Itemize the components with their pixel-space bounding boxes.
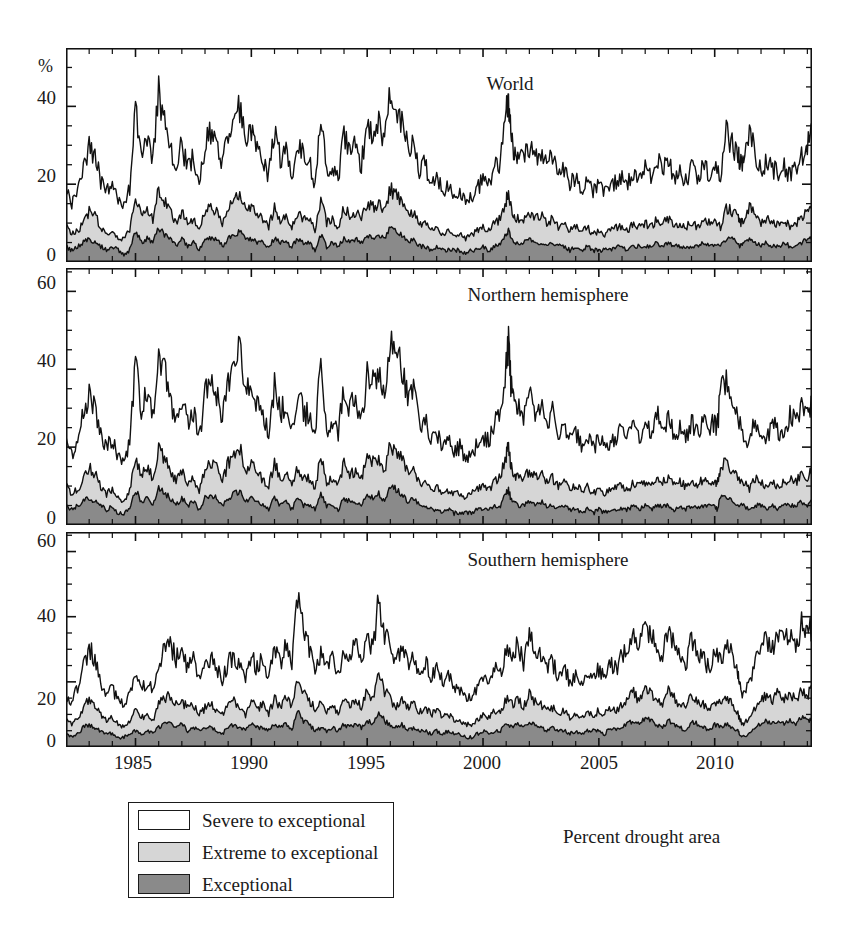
legend-label-extreme: Extreme to exceptional xyxy=(202,843,378,862)
legend: Severe to exceptional Extreme to excepti… xyxy=(128,802,394,898)
xtick-label-2000: 2000 xyxy=(447,753,517,772)
panel-world-ytick-40: 40 xyxy=(6,88,56,107)
legend-swatch-extreme xyxy=(138,842,190,862)
y-unit-label-percent: % xyxy=(38,57,53,75)
xtick-label-1985: 1985 xyxy=(98,753,168,772)
panel-nh-title: Northern hemisphere xyxy=(418,285,678,304)
panel-world-title: World xyxy=(440,74,580,93)
panel-sh-ytick-60: 60 xyxy=(6,531,56,550)
xtick-label-2005: 2005 xyxy=(564,753,634,772)
xtick-label-1990: 1990 xyxy=(214,753,284,772)
panel-northern-hemisphere-plot xyxy=(66,268,812,525)
panel-world xyxy=(66,48,812,262)
legend-item-extreme: Extreme to exceptional xyxy=(138,837,393,867)
panel-world-ytick-20: 20 xyxy=(6,166,56,185)
panel-world-ytick-0: 0 xyxy=(6,245,56,264)
panel-nh-ytick-40: 40 xyxy=(6,351,56,370)
legend-swatch-exceptional xyxy=(138,874,190,894)
panel-sh-title: Southern hemisphere xyxy=(418,550,678,569)
legend-swatch-severe xyxy=(138,810,190,830)
panel-nh-ytick-20: 20 xyxy=(6,429,56,448)
panel-nh-ytick-60: 60 xyxy=(6,273,56,292)
xtick-label-2010: 2010 xyxy=(680,753,750,772)
drought-area-figure: % 40 20 0 World 60 40 20 0 Northern hemi… xyxy=(0,0,852,925)
xtick-label-1995: 1995 xyxy=(331,753,401,772)
panel-sh-ytick-20: 20 xyxy=(6,689,56,708)
panel-sh-ytick-40: 40 xyxy=(6,606,56,625)
figure-caption: Percent drought area xyxy=(563,827,720,846)
legend-item-exceptional: Exceptional xyxy=(138,869,393,899)
panel-world-plot xyxy=(66,48,812,262)
legend-label-exceptional: Exceptional xyxy=(202,875,293,894)
top-cropped-text xyxy=(0,0,852,14)
panel-sh-ytick-0: 0 xyxy=(6,731,56,750)
legend-item-severe: Severe to exceptional xyxy=(138,805,393,835)
panel-nh-ytick-0: 0 xyxy=(6,508,56,527)
panel-northern-hemisphere xyxy=(66,268,812,525)
legend-label-severe: Severe to exceptional xyxy=(202,811,366,830)
